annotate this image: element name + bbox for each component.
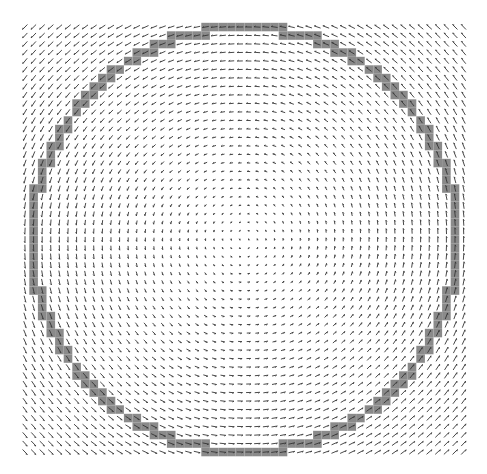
arrow <box>48 441 53 446</box>
arrow <box>100 433 106 437</box>
arrow <box>57 75 62 80</box>
arrow <box>453 441 458 446</box>
arrow <box>126 110 130 114</box>
arrow-head <box>361 263 362 265</box>
arrow <box>42 194 43 200</box>
arrow <box>117 416 122 420</box>
arrow <box>48 33 53 38</box>
arrow <box>444 92 448 98</box>
arrow <box>411 305 413 310</box>
arrow <box>393 356 397 361</box>
arrow <box>23 424 28 429</box>
arrow <box>126 76 131 80</box>
arrow <box>453 390 457 396</box>
arrow <box>444 50 449 55</box>
arrow <box>461 415 465 420</box>
arrow-head <box>86 386 88 387</box>
arrow <box>168 451 174 453</box>
arrow-head <box>187 179 188 181</box>
arrow <box>48 424 53 429</box>
arrow <box>151 451 157 454</box>
arrow-head <box>26 437 28 438</box>
arrow-head <box>83 79 84 81</box>
arrow <box>40 415 45 420</box>
arrow <box>31 415 36 420</box>
arrow <box>376 373 380 377</box>
arrow <box>463 253 464 260</box>
arrow <box>100 34 106 38</box>
arrow <box>453 25 458 30</box>
arrow <box>32 373 36 379</box>
arrow <box>402 314 404 319</box>
arrow <box>126 102 130 106</box>
arrow-head <box>94 386 96 387</box>
arrow-head <box>153 223 154 225</box>
arrow-head <box>272 94 274 95</box>
arrow <box>401 424 406 429</box>
arrow <box>41 347 44 353</box>
arrow-head <box>352 263 353 265</box>
arrow <box>280 43 286 44</box>
arrow <box>194 409 199 411</box>
arrow-head <box>83 62 84 64</box>
arrow <box>194 426 200 427</box>
arrow <box>125 51 131 54</box>
arrow <box>74 450 80 454</box>
arrow <box>118 119 122 123</box>
arrow <box>444 58 449 63</box>
arrow-head <box>215 393 217 394</box>
arrow <box>436 84 440 89</box>
arrow <box>358 76 363 80</box>
arrow-head <box>397 407 398 409</box>
arrow <box>57 42 62 47</box>
arrow <box>418 398 423 403</box>
arrow-head <box>57 45 58 47</box>
arrow <box>25 211 26 218</box>
arrow-head <box>289 34 291 35</box>
arrow-head <box>448 450 449 452</box>
arrow-head <box>414 407 415 409</box>
arrow <box>435 424 440 429</box>
arrow <box>323 60 328 63</box>
arrow-head <box>170 222 171 224</box>
arrow-head <box>101 215 102 217</box>
arrow-head <box>272 85 274 86</box>
arrow <box>367 374 371 378</box>
arrow <box>392 416 397 420</box>
arrow <box>160 400 165 403</box>
arrow <box>57 58 62 63</box>
arrow-head <box>215 368 217 369</box>
arrow <box>453 347 456 353</box>
arrow <box>74 25 80 29</box>
arrow-head <box>464 279 465 281</box>
arrow-head <box>444 41 446 42</box>
arrow <box>84 152 87 157</box>
arrow <box>125 34 131 37</box>
arrow <box>48 433 53 438</box>
arrow <box>65 50 70 55</box>
arrow <box>461 50 466 55</box>
arrow <box>31 407 35 412</box>
arrow <box>186 409 191 411</box>
arrow <box>419 109 423 114</box>
arrow <box>160 408 165 411</box>
arrow <box>393 118 397 123</box>
arrow <box>436 75 440 80</box>
arrow <box>375 84 380 88</box>
arrow <box>402 348 405 353</box>
arrow <box>375 42 381 46</box>
arrow <box>453 50 458 55</box>
arrow <box>409 59 414 64</box>
arrow-head <box>67 198 68 200</box>
arrow-head <box>421 279 422 281</box>
arrow <box>358 425 364 428</box>
arrow <box>126 408 131 412</box>
arrow-head <box>453 33 455 34</box>
arrow <box>91 59 96 63</box>
arrow <box>438 254 439 260</box>
arrow <box>40 356 44 362</box>
arrow-head <box>86 394 88 395</box>
arrow-head <box>60 420 62 421</box>
arrow <box>409 42 414 47</box>
arrow-head <box>215 410 217 411</box>
